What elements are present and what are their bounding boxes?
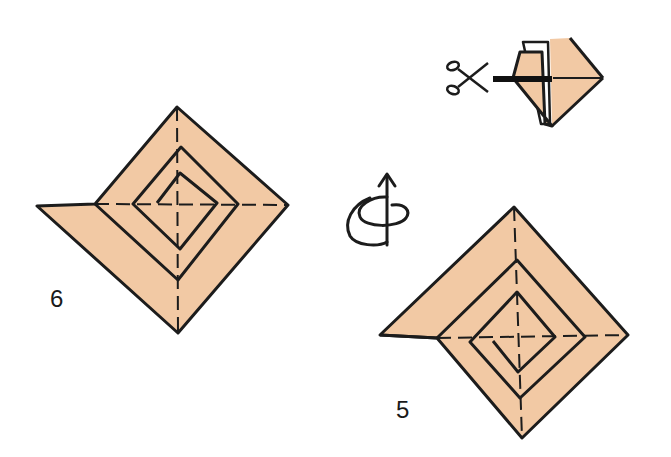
scissors-icon — [446, 60, 488, 96]
step-6-number: 6 — [50, 285, 63, 313]
turn-over-icon — [348, 174, 408, 245]
cut-detail-figure — [493, 38, 603, 126]
origami-diagram — [0, 0, 671, 457]
step-5-number: 5 — [396, 396, 409, 424]
step-5-figure — [380, 207, 628, 438]
step-6-figure — [37, 107, 288, 333]
